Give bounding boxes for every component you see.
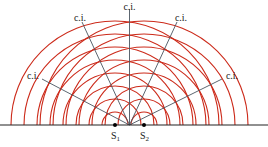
ci-label-left: c.i. bbox=[27, 70, 39, 81]
source-s2-label: S2 bbox=[140, 130, 150, 143]
source-s1-label: S1 bbox=[111, 130, 121, 143]
ci-label-right: c.i. bbox=[226, 70, 238, 81]
constructive-interference-lines bbox=[42, 9, 222, 125]
ci-label-top: c.i. bbox=[123, 1, 135, 12]
ci-label-upper-right: c.i. bbox=[175, 12, 187, 23]
source-s2-dot bbox=[142, 123, 146, 127]
interference-diagram: c.i. c.i. c.i. c.i. c.i. S1 S2 bbox=[0, 0, 268, 147]
source-s1-dot bbox=[113, 123, 117, 127]
ci-label-upper-left: c.i. bbox=[74, 12, 86, 23]
